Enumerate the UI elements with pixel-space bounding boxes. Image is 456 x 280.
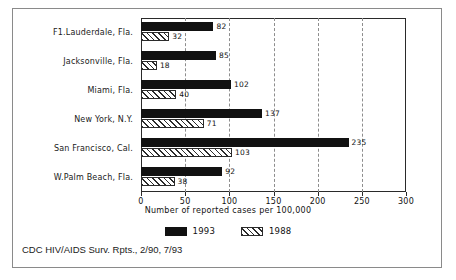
x-tick-mark (406, 192, 407, 196)
legend-swatch-1993 (165, 227, 187, 236)
bar-value-label: 85 (219, 51, 229, 60)
bar-value-label: 40 (179, 90, 189, 99)
bar-value-label: 137 (265, 109, 280, 118)
x-tick-label: 250 (354, 197, 370, 206)
bar-1993-FLauderdaleFla (141, 22, 213, 31)
x-tick-label: 50 (180, 197, 191, 206)
bar-1993-JacksonvilleFla (141, 51, 216, 60)
bar-1988-NewYorkNY (141, 119, 204, 128)
bar-1993-SanFranciscoCal (141, 138, 349, 147)
bar-1993-WPalmBeachFla (141, 167, 222, 176)
legend-label: 1993 (193, 226, 215, 236)
category-label: W.Palm Beach, Fla. (54, 173, 133, 183)
plot-area: 8232851810240137712351039238 (141, 18, 406, 192)
chart-legend: 19931988 (0, 226, 456, 236)
x-tick-mark (185, 192, 186, 196)
source-caption: CDC HIV/AIDS Surv. Rpts., 2/90, 7/93 (22, 244, 182, 255)
category-label: Jacksonville, Fla. (63, 57, 133, 67)
category-label: Miami, Fla. (87, 86, 133, 96)
bar-1988-JacksonvilleFla (141, 61, 157, 70)
category-axis-labels: F1.Lauderdale, Fla.Jacksonville, Fla.Mia… (12, 18, 138, 192)
bar-value-label: 103 (235, 148, 250, 157)
bar-row: 8232 (141, 18, 406, 47)
x-tick-label: 300 (398, 197, 414, 206)
bar-value-label: 102 (234, 80, 249, 89)
bar-value-label: 82 (216, 22, 226, 31)
category-label: New York, N.Y. (74, 115, 133, 125)
bar-value-label: 71 (207, 119, 217, 128)
bar-1988-SanFranciscoCal (141, 148, 232, 157)
bar-row: 13771 (141, 105, 406, 134)
bar-value-label: 38 (178, 177, 188, 186)
bar-1988-WPalmBeachFla (141, 177, 175, 186)
category-label: F1.Lauderdale, Fla. (53, 28, 133, 38)
bar-row: 235103 (141, 134, 406, 163)
x-tick-label: 0 (138, 197, 143, 206)
x-tick-mark (362, 192, 363, 196)
bar-1988-MiamiFla (141, 90, 176, 99)
bar-1993-MiamiFla (141, 80, 231, 89)
bar-row: 10240 (141, 76, 406, 105)
bar-value-label: 18 (160, 61, 170, 70)
x-tick-mark (229, 192, 230, 196)
legend-swatch-1988 (241, 227, 263, 236)
x-tick-mark (141, 192, 142, 196)
x-tick-label: 100 (221, 197, 237, 206)
x-tick-label: 150 (266, 197, 282, 206)
x-tick-mark (318, 192, 319, 196)
legend-label: 1988 (269, 226, 291, 236)
bar-value-label: 32 (172, 32, 182, 41)
chart-figure: F1.Lauderdale, Fla.Jacksonville, Fla.Mia… (0, 0, 456, 280)
bar-row: 9238 (141, 163, 406, 192)
x-tick-label: 200 (310, 197, 326, 206)
bar-1988-FLauderdaleFla (141, 32, 169, 41)
bar-row: 8518 (141, 47, 406, 76)
legend-item-1988: 1988 (241, 226, 291, 236)
bar-value-label: 235 (352, 138, 367, 147)
x-axis-title: Number of reported cases per 100,000 (0, 206, 456, 215)
bar-1993-NewYorkNY (141, 109, 262, 118)
category-label: San Francisco, Cal. (54, 144, 133, 154)
bar-rows: 8232851810240137712351039238 (141, 18, 406, 192)
bar-value-label: 92 (225, 167, 235, 176)
x-tick-mark (274, 192, 275, 196)
legend-item-1993: 1993 (165, 226, 215, 236)
